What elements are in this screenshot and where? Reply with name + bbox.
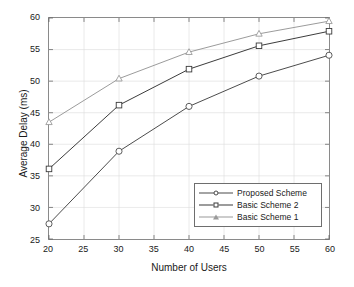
legend-label: Basic Scheme 2 <box>234 200 298 210</box>
data-point-marker <box>46 166 52 172</box>
legend-item[interactable]: Proposed Scheme <box>198 187 317 199</box>
data-point-marker <box>186 103 192 109</box>
data-point-marker <box>256 43 262 49</box>
legend-marker-square-icon <box>214 203 219 208</box>
x-tick-label: 40 <box>184 244 194 254</box>
legend-label: Proposed Scheme <box>234 188 307 198</box>
x-tick-label: 20 <box>43 244 53 254</box>
x-tick-label: 50 <box>254 244 264 254</box>
x-tick-label: 45 <box>219 244 229 254</box>
data-point-marker <box>326 18 332 24</box>
x-tick-label: 60 <box>325 244 335 254</box>
y-tick-label: 25 <box>0 235 40 245</box>
legend-label: Basic Scheme 1 <box>234 212 298 222</box>
legend-item[interactable]: Basic Scheme 1 <box>198 211 317 223</box>
data-point-marker <box>46 119 52 125</box>
x-axis-label: Number of Users <box>48 262 330 273</box>
data-point-marker <box>116 148 122 154</box>
legend-item[interactable]: Basic Scheme 2 <box>198 199 317 211</box>
y-tick-label: 60 <box>0 12 40 22</box>
x-tick-label: 35 <box>149 244 159 254</box>
data-point-marker <box>46 221 52 227</box>
data-point-marker <box>256 73 262 79</box>
x-tick-label: 55 <box>290 244 300 254</box>
legend-box: Proposed SchemeBasic Scheme 2Basic Schem… <box>194 183 322 227</box>
legend-marker-circle-icon <box>214 191 219 196</box>
legend-marker-triangle-icon <box>213 215 219 220</box>
legend-swatch <box>198 211 234 223</box>
legend-swatch <box>198 187 234 199</box>
x-tick-label: 25 <box>78 244 88 254</box>
x-tick-label: 30 <box>113 244 123 254</box>
data-point-marker <box>186 66 192 72</box>
data-point-marker <box>116 102 122 108</box>
y-tick-label: 55 <box>0 44 40 54</box>
data-point-marker <box>326 52 332 58</box>
legend-swatch <box>198 199 234 211</box>
data-point-marker <box>326 28 332 34</box>
y-axis-label: Average Delay (ms) <box>18 54 29 214</box>
figure-canvas: 2530354045505560 202530354045505560 Numb… <box>0 0 354 287</box>
